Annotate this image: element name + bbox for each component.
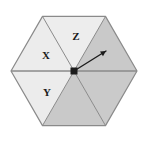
center-point-marker [71,68,78,75]
hexagon-figure-container: X Z Y [0,0,148,142]
sector-label-y: Y [43,86,51,98]
hexagon-diagram-svg: X Z Y [0,0,148,142]
sector-label-x: X [42,49,50,61]
sector-label-z: Z [72,30,79,42]
